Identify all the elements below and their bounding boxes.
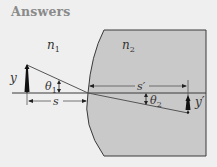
image-distance-label: s′ xyxy=(137,80,146,93)
image-height-label: y′ xyxy=(194,95,205,109)
angle1-label: θ1 xyxy=(45,80,57,95)
angle1-marker xyxy=(57,80,61,93)
object-height-label: y xyxy=(9,71,17,85)
refraction-diagram: n1 n2 y y′ θ1 θ2 s s′ xyxy=(0,0,217,167)
object-distance-label: s xyxy=(53,95,59,108)
medium1-label: n1 xyxy=(47,38,60,54)
object-arrow-icon xyxy=(25,64,30,93)
incident-ray xyxy=(27,65,88,93)
